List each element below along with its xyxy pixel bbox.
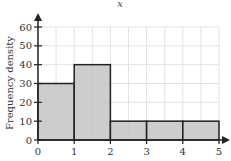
x-tick-label: 4 <box>180 146 186 157</box>
histogram-bar <box>183 121 219 140</box>
histogram-bar <box>147 121 183 140</box>
histogram-bar <box>110 121 146 140</box>
x-axis-arrow-icon <box>222 136 230 144</box>
y-tick-label: 0 <box>26 135 32 146</box>
y-tick-label: 50 <box>19 40 32 51</box>
histogram-bar <box>38 84 74 141</box>
chart-title: x <box>117 0 123 9</box>
y-axis-arrow-icon <box>34 13 42 21</box>
x-tick-label: 2 <box>107 146 113 157</box>
x-tick-label: 3 <box>143 146 149 157</box>
y-tick-label: 20 <box>19 97 32 108</box>
y-tick-label: 10 <box>19 116 32 127</box>
y-tick-label: 40 <box>19 59 32 70</box>
x-tick-label: 1 <box>71 146 77 157</box>
histogram-chart: 0123450102030405060 x Frequency density <box>0 0 231 161</box>
y-axis-title: Frequency density <box>4 36 15 130</box>
histogram-bar <box>74 65 110 140</box>
x-tick-label: 0 <box>35 146 41 157</box>
x-tick-label: 5 <box>216 146 222 157</box>
y-tick-label: 30 <box>19 78 32 89</box>
y-tick-label: 60 <box>19 22 32 33</box>
